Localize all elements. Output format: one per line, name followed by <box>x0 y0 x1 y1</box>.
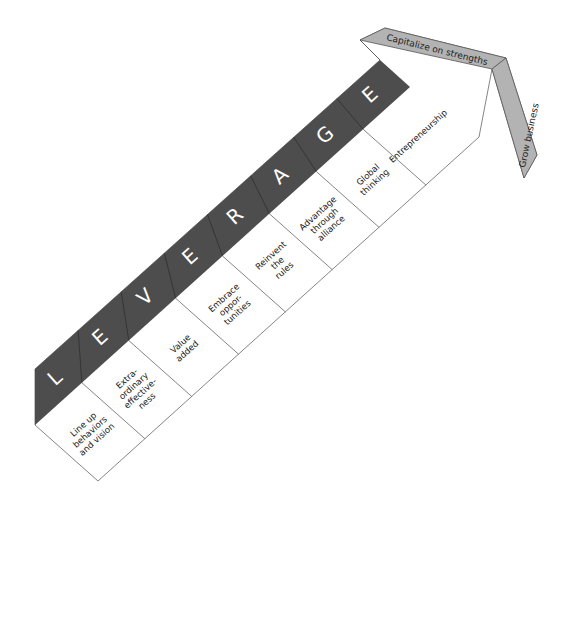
arrow-body <box>35 28 537 481</box>
leverage-arrow-diagram: LEVERAGE Line upbehaviorsand visionExtra… <box>0 0 567 637</box>
